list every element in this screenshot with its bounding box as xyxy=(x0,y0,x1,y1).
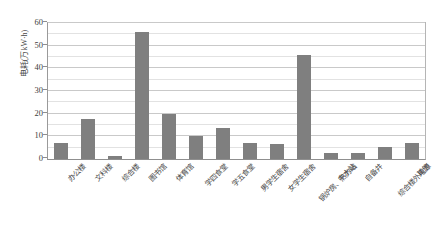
x-tick-label: 女学生宿舍 xyxy=(286,162,317,193)
bar xyxy=(405,143,419,159)
y-axis-ticks: 0102030405060 xyxy=(18,22,43,158)
x-tick-label: 文科楼 xyxy=(94,162,115,183)
bar xyxy=(270,144,284,159)
y-tick-label: 60 xyxy=(21,18,43,26)
bar xyxy=(243,143,257,159)
y-tick-label: 10 xyxy=(21,131,43,139)
bar xyxy=(108,156,122,159)
bar xyxy=(351,153,365,159)
x-tick-label: 办公楼 xyxy=(67,162,88,183)
x-tick-label: 学五食堂 xyxy=(230,162,256,188)
x-tick-label: 体育馆 xyxy=(174,162,195,183)
bar xyxy=(216,128,230,159)
y-tick-label: 20 xyxy=(21,109,43,117)
bar xyxy=(81,119,95,159)
x-tick-label: 男学生宿舍 xyxy=(259,162,290,193)
x-tick-label: 自备井 xyxy=(363,162,384,183)
bar xyxy=(378,147,392,159)
x-tick-label: 学四食堂 xyxy=(203,162,229,188)
bar xyxy=(297,55,311,159)
x-axis-labels: 办公楼文科楼综合楼图书馆体育馆学四食堂学五食堂男学生宿舍女学生宿舍锅炉房、热力站… xyxy=(0,160,441,242)
bars-container xyxy=(48,23,425,159)
x-tick-label: 图书馆 xyxy=(147,162,168,183)
x-tick-label: 综合楼 xyxy=(120,162,141,183)
bar xyxy=(54,143,68,159)
bar xyxy=(135,32,149,159)
bar xyxy=(162,114,176,159)
bar xyxy=(189,136,203,159)
y-tick-label: 40 xyxy=(21,63,43,71)
bar xyxy=(324,153,338,159)
plot-area xyxy=(47,22,426,160)
y-tick-label: 50 xyxy=(21,41,43,49)
bar-chart: 电耗(万kW·h) 0102030405060 办公楼文科楼综合楼图书馆体育馆学… xyxy=(0,0,441,242)
y-tick-label: 30 xyxy=(21,86,43,94)
